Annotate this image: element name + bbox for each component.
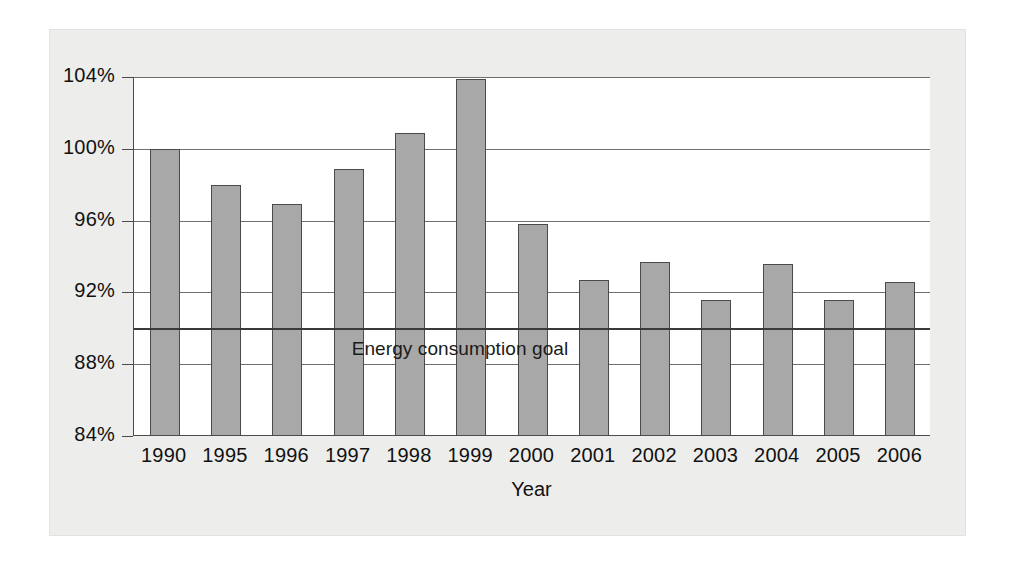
bar-1995 [211, 185, 241, 436]
x-axis-title: Year [133, 478, 930, 501]
x-axis-tick-label: 1998 [378, 444, 439, 467]
y-axis-tick-label: 100% [50, 136, 115, 159]
bar-1997 [334, 169, 364, 436]
bar-1990 [150, 149, 180, 436]
x-axis-tick-label: 1995 [194, 444, 255, 467]
x-axis-tick-label: 1999 [440, 444, 501, 467]
gridline [134, 221, 930, 222]
energy-consumption-goal-line [134, 328, 930, 330]
x-axis-tick-label: 2001 [562, 444, 623, 467]
x-axis-tick-label: 2004 [746, 444, 807, 467]
energy-consumption-goal-label: Energy consumption goal [352, 338, 569, 360]
bar-2002 [640, 262, 670, 436]
bar-2004 [763, 264, 793, 436]
bar-2003 [701, 300, 731, 436]
bar-1996 [272, 204, 302, 436]
gridline [134, 149, 930, 150]
x-axis-tick-label: 2002 [623, 444, 684, 467]
y-axis-tick [122, 292, 133, 293]
y-axis-tick-label: 104% [50, 64, 115, 87]
bar-1998 [395, 133, 425, 436]
bar-2006 [885, 282, 915, 436]
x-axis-tick-label: 2000 [501, 444, 562, 467]
y-axis-tick-label: 84% [50, 423, 115, 446]
bar-1999 [456, 79, 486, 436]
y-axis-tick [122, 149, 133, 150]
x-axis-tick-label: 2005 [807, 444, 868, 467]
x-axis-tick-label: 1990 [133, 444, 194, 467]
y-axis-tick [122, 436, 133, 437]
gridline [134, 77, 930, 78]
x-axis-tick-label: 1996 [256, 444, 317, 467]
y-axis-tick-label: 88% [50, 351, 115, 374]
y-axis-tick-label: 96% [50, 208, 115, 231]
chart-plot-area: Energy consumption goal [133, 77, 930, 436]
x-axis-tick-label: 2006 [869, 444, 930, 467]
bar-2005 [824, 300, 854, 436]
y-axis-tick [122, 77, 133, 78]
y-axis-tick [122, 221, 133, 222]
y-axis-tick-label: 92% [50, 279, 115, 302]
bar-2001 [579, 280, 609, 436]
x-axis-tick-label: 2003 [685, 444, 746, 467]
chart-card: Energy consumption goal 84%88%92%96%100%… [50, 30, 965, 535]
y-axis-tick [122, 364, 133, 365]
x-axis-tick-label: 1997 [317, 444, 378, 467]
